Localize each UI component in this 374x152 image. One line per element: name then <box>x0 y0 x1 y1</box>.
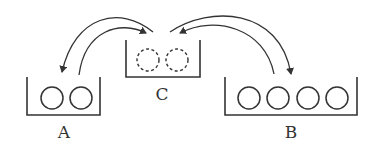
ball-a-1 <box>41 87 63 109</box>
arrow-b-to-c <box>180 25 274 74</box>
ball-b-2 <box>267 87 289 109</box>
ball-b-1 <box>238 87 260 109</box>
container-c: C <box>126 40 200 104</box>
ball-c-1-dashed <box>137 49 159 71</box>
ball-a-2 <box>70 87 92 109</box>
transfer-diagram: A C B <box>0 0 374 152</box>
ball-c-2-dashed <box>166 49 188 71</box>
arrow-a-to-c <box>79 28 146 75</box>
arrow-c-to-b <box>170 16 291 74</box>
ball-b-3 <box>297 87 319 109</box>
label-b: B <box>285 122 298 142</box>
ball-b-4 <box>326 87 348 109</box>
label-c: C <box>155 84 168 104</box>
arrow-c-to-a <box>62 18 153 72</box>
label-a: A <box>57 122 71 142</box>
container-a: A <box>27 77 100 142</box>
container-b: B <box>225 77 357 142</box>
